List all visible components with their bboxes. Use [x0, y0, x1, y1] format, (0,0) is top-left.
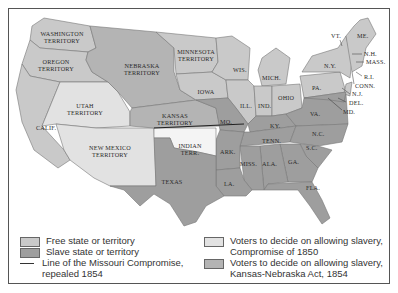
label-kansas-2: TERRITORY	[157, 119, 193, 126]
label-mass: MASS.	[366, 58, 386, 65]
label-mich: MICH.	[262, 74, 281, 81]
label-nj: N.J.	[352, 90, 363, 97]
legend-item-missouri-line: Line of the Missouri Compromise,repealed…	[20, 258, 184, 279]
label-la: LA.	[224, 180, 235, 187]
label-washington-1: WASHINGTON	[40, 30, 83, 37]
label-ohio: OHIO	[278, 94, 295, 101]
label-indian-2: TERR.	[181, 149, 200, 156]
label-minnesota-2: TERRITORY	[178, 55, 214, 62]
legend: Free state or territory Slave state or t…	[18, 236, 388, 282]
legend-label-line1: Voters to decide on allowing slavery,	[230, 257, 383, 268]
legend-label-free: Free state or territory	[46, 236, 135, 247]
label-nc: N.C.	[312, 130, 325, 137]
legend-label-line1: Line of the Missouri Compromise,	[42, 257, 184, 268]
svg-text:INDIANTERR.: INDIANTERR.	[178, 142, 202, 156]
label-ga: GA.	[288, 158, 299, 165]
label-ind: IND.	[258, 102, 272, 109]
region-wisconsin	[212, 36, 250, 80]
label-ny: N.Y.	[324, 62, 336, 69]
label-texas: TEXAS	[162, 178, 183, 185]
label-tenn: TENN.	[262, 137, 281, 144]
legend-label-line2: repealed 1854	[42, 268, 103, 279]
label-new-mexico-1: NEW MEXICO	[89, 144, 131, 151]
svg-text:OREGONTERRITORY: OREGONTERRITORY	[38, 58, 74, 72]
legend-label-line1: Voters to decide on allowing slavery,	[230, 235, 383, 246]
legend-label-compromise-1850: Voters to decide on allowing slavery,Com…	[230, 236, 383, 257]
legend-item-compromise-1850: Voters to decide on allowing slavery,Com…	[204, 236, 383, 257]
label-ala: ALA.	[262, 160, 277, 167]
label-ill: ILL.	[240, 102, 252, 109]
label-ri: R.I.	[364, 73, 374, 80]
label-ky: KY.	[270, 122, 281, 129]
label-fla: FLA.	[306, 184, 320, 191]
label-sc: S.C.	[306, 144, 318, 151]
label-vt: VT.	[331, 32, 341, 39]
label-minnesota-1: MINNESOTA	[177, 48, 215, 55]
legend-label-kansas-nebraska: Voters to decide on allowing slavery,Kan…	[230, 258, 383, 279]
line-swatch-icon	[20, 263, 34, 264]
kansas-nebraska-swatch-icon	[204, 259, 224, 269]
label-va: VA.	[310, 110, 321, 117]
label-oregon-2: TERRITORY	[38, 65, 74, 72]
svg-text:WASHINGTONTERRITORY: WASHINGTONTERRITORY	[40, 30, 83, 44]
svg-text:NEBRASKATERRITORY: NEBRASKATERRITORY	[124, 62, 160, 76]
svg-text:MINNESOTATERRITORY: MINNESOTATERRITORY	[177, 48, 215, 62]
label-indian-1: INDIAN	[178, 142, 202, 149]
label-miss: MISS.	[240, 160, 257, 167]
label-del: DEL.	[349, 99, 364, 106]
label-nh: N.H.	[364, 50, 377, 57]
label-utah-2: TERRITORY	[67, 109, 103, 116]
svg-text:KANSASTERRITORY: KANSASTERRITORY	[157, 112, 193, 126]
region-new-york	[302, 36, 352, 78]
label-conn: CONN.	[355, 82, 375, 89]
slave-swatch-icon	[20, 248, 40, 258]
label-nebraska-2: TERRITORY	[124, 69, 160, 76]
label-utah-1: UTAH	[76, 102, 94, 109]
legend-label-line2: Kansas-Nebraska Act, 1854	[230, 268, 348, 279]
legend-item-kansas-nebraska: Voters to decide on allowing slavery,Kan…	[204, 258, 383, 279]
label-md: MD.	[343, 108, 355, 115]
label-new-mexico-2: TERRITORY	[92, 151, 128, 158]
label-mo: MO.	[220, 118, 232, 125]
label-washington-2: TERRITORY	[44, 37, 80, 44]
region-indiana	[254, 86, 272, 116]
legend-label-line2: Compromise of 1850	[230, 246, 318, 257]
label-wis: WIS.	[233, 66, 247, 73]
region-florida	[264, 182, 330, 224]
label-oregon-1: OREGON	[43, 58, 70, 65]
label-ark: ARK.	[220, 148, 236, 155]
label-me: ME.	[357, 32, 369, 39]
label-iowa: IOWA	[198, 88, 215, 95]
legend-label-missouri-line: Line of the Missouri Compromise,repealed…	[42, 258, 184, 279]
label-nebraska-1: NEBRASKA	[125, 62, 160, 69]
label-kansas-1: KANSAS	[162, 112, 188, 119]
label-calif: CALIF.	[36, 124, 56, 131]
free-swatch-icon	[20, 237, 40, 247]
svg-text:NEW MEXICOTERRITORY: NEW MEXICOTERRITORY	[89, 144, 131, 158]
legend-label-slave: Slave state or territory	[46, 247, 139, 258]
compromise-1850-swatch-icon	[204, 237, 224, 247]
label-pa: PA.	[312, 84, 322, 91]
